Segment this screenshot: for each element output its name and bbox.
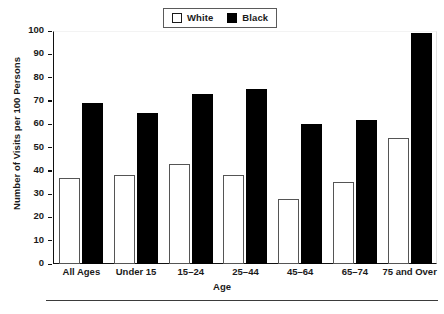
- bar-black: [192, 94, 213, 264]
- y-axis-tick-label: 70: [33, 95, 44, 105]
- figure: White Black 0102030405060708090100 Numbe…: [0, 0, 444, 314]
- chart-legend: White Black: [163, 8, 277, 28]
- bar-white: [114, 175, 135, 264]
- legend-entry-white: White: [172, 13, 213, 23]
- legend-label-black: Black: [242, 13, 268, 23]
- bar-white: [59, 178, 80, 264]
- bar-group: [273, 31, 328, 264]
- x-axis-tick-label: 75 and Over: [382, 267, 437, 277]
- y-axis-tick-label: 100: [28, 25, 44, 35]
- y-axis-tick-label: 20: [33, 211, 44, 221]
- y-axis-tick-mark: [48, 31, 52, 32]
- y-axis-tick-label: 60: [33, 118, 44, 128]
- y-axis-tick-label: 90: [33, 48, 44, 58]
- x-axis-tick-label: 45–64: [273, 267, 328, 277]
- bar-black: [411, 33, 432, 264]
- y-axis-tick-mark: [48, 170, 52, 171]
- y-axis-tick-label: 0: [39, 258, 44, 268]
- bar-group: [218, 31, 273, 264]
- bar-black: [82, 103, 103, 264]
- x-axis-tick-label: 15–24: [163, 267, 218, 277]
- bar-white: [278, 199, 299, 264]
- y-axis-tick-mark: [48, 240, 52, 241]
- footer-caption: [46, 304, 438, 314]
- open-square-icon: [172, 13, 182, 23]
- y-axis-tick-mark: [48, 147, 52, 148]
- bar-black: [137, 113, 158, 264]
- y-axis-tick-label: 40: [33, 165, 44, 175]
- y-axis-tick-label: 80: [33, 72, 44, 82]
- bar-group: [109, 31, 164, 264]
- y-axis-tick-mark: [48, 217, 52, 218]
- bar-white: [333, 182, 354, 264]
- y-axis: 0102030405060708090100: [0, 31, 53, 264]
- filled-square-icon: [227, 13, 237, 23]
- y-axis-tick-mark: [48, 124, 52, 125]
- bar-black: [246, 89, 267, 264]
- legend-label-white: White: [187, 13, 213, 23]
- bar-group: [328, 31, 383, 264]
- bar-group: [54, 31, 109, 264]
- y-axis-tick-mark: [48, 77, 52, 78]
- bar-group: [163, 31, 218, 264]
- y-axis-tick-label: 10: [33, 235, 44, 245]
- y-axis-tick-label: 30: [33, 188, 44, 198]
- y-axis-tick-mark: [48, 100, 52, 101]
- bar-black: [356, 120, 377, 264]
- x-axis-tick-label: 65–74: [328, 267, 383, 277]
- bar-white: [169, 164, 190, 264]
- bar-series-container: [54, 31, 437, 264]
- x-axis-tick-label: Under 15: [109, 267, 164, 277]
- bar-white: [223, 175, 244, 264]
- y-axis-title: Number of Visits per 100 Persons: [11, 34, 22, 234]
- y-axis-tick-mark: [48, 54, 52, 55]
- y-axis-tick-label: 50: [33, 142, 44, 152]
- bar-black: [301, 124, 322, 264]
- footer-divider: [46, 300, 438, 301]
- x-axis-tick-label: All Ages: [54, 267, 109, 277]
- bar-white: [388, 138, 409, 264]
- x-axis-title: Age: [0, 281, 444, 292]
- x-axis-tick-label: 25–44: [218, 267, 273, 277]
- x-axis-tick-labels: All AgesUnder 1515–2425–4445–6465–7475 a…: [54, 267, 437, 281]
- bar-group: [382, 31, 437, 264]
- legend-entry-black: Black: [227, 13, 268, 23]
- y-axis-tick-mark: [48, 264, 52, 265]
- y-axis-tick-mark: [48, 194, 52, 195]
